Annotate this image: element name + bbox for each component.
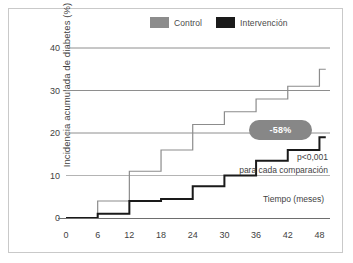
legend-item-control: Control <box>150 17 202 28</box>
x-tick-label: 42 <box>283 230 293 240</box>
plot-area: Incidencia acumulada de diabetes (%) 010… <box>66 48 330 218</box>
y-tick-label: 40 <box>50 43 60 53</box>
comparison-note: para cada comparación <box>239 165 328 175</box>
reduction-badge-label: -58% <box>270 125 292 135</box>
series-line-intervención <box>66 137 326 218</box>
legend-swatch-intervencion-icon <box>216 17 235 28</box>
x-tick-label: 12 <box>124 230 134 240</box>
x-tick-label: 24 <box>188 230 198 240</box>
legend-label-intervencion: Intervención <box>240 18 288 28</box>
x-tick-label: 36 <box>251 230 261 240</box>
legend-label-control: Control <box>174 18 202 28</box>
legend-item-intervencion: Intervención <box>216 17 288 28</box>
p-value-note: p<0,001 <box>297 152 328 162</box>
x-tick-label: 0 <box>63 230 68 240</box>
x-tick-label: 18 <box>156 230 166 240</box>
reduction-badge: -58% <box>249 120 312 140</box>
x-axis-line <box>58 218 330 219</box>
x-tick-label: 6 <box>95 230 100 240</box>
y-tick-label: 30 <box>50 86 60 96</box>
y-tick-label: 10 <box>50 171 60 181</box>
x-axis-title: Tiempo (meses) <box>263 194 324 204</box>
x-tick-label: 48 <box>314 230 324 240</box>
chart-legend: Control Intervención <box>150 17 288 28</box>
y-tick-label: 20 <box>50 128 60 138</box>
x-tick-label: 30 <box>219 230 229 240</box>
chart-figure: Control Intervención Incidencia acumulad… <box>0 0 353 263</box>
